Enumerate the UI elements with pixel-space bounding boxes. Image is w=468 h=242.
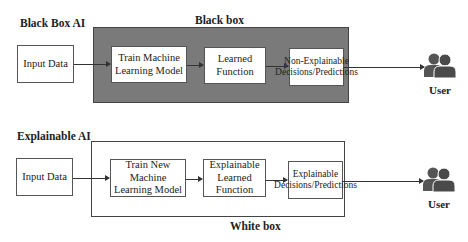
- black-learned-function-node: Learned Function: [204, 47, 266, 84]
- black-decisions-node: Non-Explainable Decisions/Predictions: [289, 48, 344, 86]
- white-input-data-node: Input Data: [16, 158, 73, 196]
- black-train-model-node: Train Machine Learning Model: [111, 46, 187, 83]
- white-arrow-function-decisions: [266, 180, 287, 181]
- white-train-model-node: Train New Machine Learning Model: [110, 159, 186, 197]
- black-user-label: User: [420, 84, 460, 96]
- black-box-ai-title: Black Box AI: [20, 17, 85, 29]
- black-arrow-input-train: [74, 64, 110, 65]
- white-arrow-input-train: [73, 178, 109, 179]
- white-box-label: White box: [230, 220, 281, 232]
- users-icon: [423, 52, 457, 78]
- explainable-ai-title: Explainable AI: [17, 130, 91, 142]
- black-arrow-train-function: [187, 65, 203, 66]
- black-input-data-node: Input Data: [17, 45, 74, 83]
- white-learned-function-node: Explainable Learned Function: [203, 159, 266, 197]
- white-arrow-train-function: [186, 179, 202, 180]
- users-icon: [422, 166, 456, 192]
- black-box-label: Black box: [195, 14, 244, 26]
- white-arrow-decisions-user: [343, 181, 423, 182]
- black-arrow-decisions-user: [344, 67, 424, 68]
- black-arrow-function-decisions: [266, 66, 288, 67]
- white-user-label: User: [419, 198, 459, 210]
- white-decisions-node: Explainable Decisions/Predictions: [288, 161, 343, 199]
